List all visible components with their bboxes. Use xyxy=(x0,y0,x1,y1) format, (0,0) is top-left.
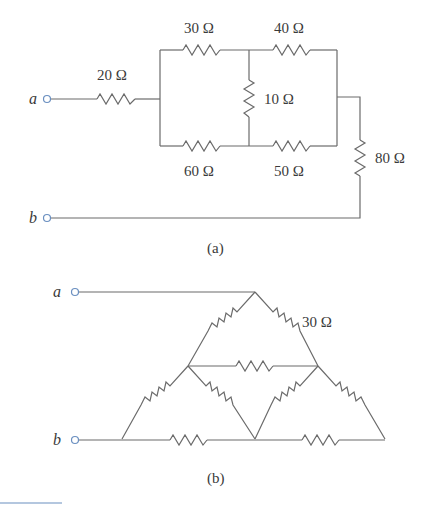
resistor-40-label: 40 Ω xyxy=(274,20,304,36)
resistor-30-label: 30 Ω xyxy=(184,20,214,36)
resistor-lower-right-icon xyxy=(318,366,385,439)
resistor-middle-horizontal-icon xyxy=(236,361,273,371)
circuit-figure: a 20 Ω 30 Ω 40 Ω 10 Ω 60 Ω 50 Ω xyxy=(0,0,426,514)
terminal-a-label: a xyxy=(53,283,61,300)
figure-b-caption: (b) xyxy=(207,470,225,487)
resistor-20-label: 20 Ω xyxy=(97,67,127,83)
resistor-80-icon xyxy=(355,140,365,176)
resistor-10-label: 10 Ω xyxy=(264,91,294,107)
terminal-b-node xyxy=(44,215,51,222)
wire xyxy=(51,176,360,218)
resistor-top-left-icon xyxy=(188,292,255,366)
figure-b: a 30 Ω b (b) xyxy=(53,283,385,487)
terminal-a-node xyxy=(72,289,79,296)
terminal-b-label: b xyxy=(53,431,61,448)
resistor-40-icon xyxy=(273,45,310,55)
figure-a-caption: (a) xyxy=(207,240,224,257)
resistor-inner-left-icon xyxy=(188,366,255,439)
resistor-bottom-left-icon xyxy=(170,435,207,445)
terminal-a-node xyxy=(44,96,51,103)
resistor-20-icon xyxy=(97,94,135,104)
resistor-top-right-label: 30 Ω xyxy=(302,314,332,330)
resistor-80-label: 80 Ω xyxy=(375,150,405,166)
figure-a: a 20 Ω 30 Ω 40 Ω 10 Ω 60 Ω 50 Ω xyxy=(29,20,405,257)
resistor-50-label: 50 Ω xyxy=(274,163,304,179)
resistor-30-icon xyxy=(183,45,220,55)
resistor-inner-right-icon xyxy=(255,366,318,439)
resistor-60-icon xyxy=(183,141,220,151)
resistor-10-icon xyxy=(244,80,254,117)
resistor-bottom-right-icon xyxy=(302,435,339,445)
resistor-lower-left-icon xyxy=(122,366,188,439)
terminal-b-node xyxy=(72,437,79,444)
resistor-60-label: 60 Ω xyxy=(184,163,214,179)
terminal-b-label: b xyxy=(29,209,37,226)
wire xyxy=(337,97,360,140)
resistor-50-icon xyxy=(273,141,310,151)
terminal-a-label: a xyxy=(29,90,37,107)
